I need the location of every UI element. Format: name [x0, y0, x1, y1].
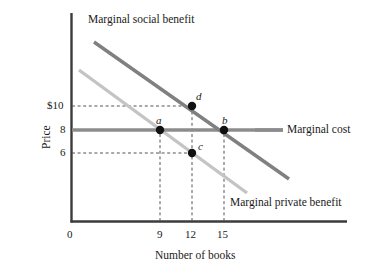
economics-externality-chart: Price $10 8 6 0 9 12 15 Number of books …	[0, 0, 369, 269]
curve-label-marginal-social-benefit: Marginal social benefit	[88, 14, 194, 26]
x-axis-title: Number of books	[155, 250, 236, 262]
data-point-c	[188, 149, 196, 157]
point-label-b: b	[222, 115, 228, 126]
x-tick-label-15: 15	[217, 229, 228, 240]
point-label-c: c	[198, 141, 203, 152]
point-label-a: a	[156, 115, 162, 126]
data-point-a	[156, 126, 164, 134]
y-axis-title: Price	[41, 125, 53, 149]
data-point-b	[220, 126, 228, 134]
curve-label-marginal-private-benefit: Marginal private benefit	[230, 197, 342, 209]
x-tick-label-0: 0	[67, 229, 73, 240]
x-tick-label-9: 9	[157, 229, 163, 240]
x-tick-label-12: 12	[185, 229, 196, 240]
y-tick-label-10: $10	[47, 100, 64, 111]
y-tick-label-6: 6	[60, 147, 66, 158]
curve-label-marginal-cost: Marginal cost	[287, 124, 350, 136]
data-point-d	[188, 102, 196, 110]
y-tick-label-8: 8	[60, 124, 66, 135]
point-label-d: d	[196, 91, 202, 102]
